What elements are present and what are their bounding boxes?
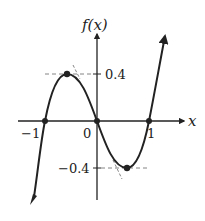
y-tick-label-0.4: 0.4 bbox=[105, 67, 126, 82]
function-plot: f(x) x 0.4 −0.4 −1 0 1 bbox=[0, 0, 205, 221]
local-max-point bbox=[64, 71, 70, 77]
root-point-0 bbox=[94, 118, 100, 124]
function-curve bbox=[34, 36, 165, 197]
x-tick-label-1: 1 bbox=[147, 126, 155, 141]
x-tick-label-neg1: −1 bbox=[21, 126, 40, 141]
root-point-1 bbox=[146, 118, 152, 124]
y-axis-label: f(x) bbox=[81, 16, 108, 34]
y-tick-label-neg-0.4: −0.4 bbox=[58, 161, 90, 176]
local-min-point bbox=[124, 165, 130, 171]
curve-arrow-down bbox=[30, 194, 37, 205]
x-tick-label-0: 0 bbox=[83, 126, 91, 141]
root-point-neg1 bbox=[42, 118, 48, 124]
x-axis-label: x bbox=[188, 112, 197, 130]
